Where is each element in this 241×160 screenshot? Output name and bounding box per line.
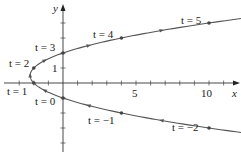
direction-arrow-icon [28,73,32,78]
t-label-1: t = 1 [7,85,27,97]
curve-point [32,66,36,70]
curve-point [120,111,124,115]
t-label-neg2: t = −2 [172,121,198,133]
x-axis-arrow-icon [233,81,240,86]
parametric-curve-plot: x y 5 10 1 t = −2 t = −1 t = 0 t = 1 t =… [0,0,241,160]
parametric-curve [30,19,241,135]
y-axis-arrow-icon [61,4,66,11]
x-tick-label-10: 10 [201,87,213,99]
curve-point [32,81,36,85]
curve-point [120,36,124,40]
t-label-3: t = 3 [35,41,56,53]
curve-point [207,126,211,130]
direction-arrow-icon [42,88,48,93]
x-tick-label-5: 5 [132,87,138,99]
x-axis-label: x [231,87,237,99]
y-tick-label-1: 1 [52,62,58,74]
axes [4,4,240,152]
y-axis-label: y [52,2,58,14]
t-label-5: t = 5 [181,14,202,26]
curve-point [61,96,65,100]
t-label-0: t = 0 [35,95,56,107]
direction-arrow-icon [42,58,48,63]
t-points [32,21,211,130]
curve-point [61,51,65,55]
t-label-4: t = 4 [93,28,114,40]
t-label-2: t = 2 [9,57,29,69]
t-label-neg1: t = −1 [88,114,114,126]
curve-point [207,21,211,25]
